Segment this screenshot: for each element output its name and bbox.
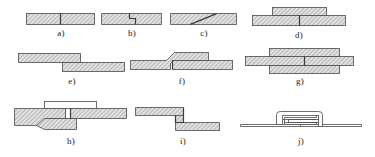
plate-right <box>305 57 354 66</box>
diagram-d-label: d) <box>252 30 346 40</box>
plate-left <box>27 14 61 25</box>
diagram-e <box>18 51 126 75</box>
plate-left <box>246 57 305 66</box>
diagram-e-label: e) <box>18 76 126 86</box>
diagram-i-label: i) <box>135 136 231 146</box>
diagram-h-label: h) <box>14 136 128 146</box>
diagram-f-label: f) <box>130 76 234 86</box>
plate-right <box>300 16 346 26</box>
diagram-h <box>14 99 128 135</box>
plate-right <box>61 14 95 25</box>
fold-inner-hook <box>285 116 319 125</box>
cover-strap-bottom <box>270 66 340 74</box>
plate-straight <box>173 61 233 70</box>
diagram-f <box>130 49 234 75</box>
plate-left <box>253 16 300 26</box>
diagram-a-label: a) <box>26 28 96 38</box>
diagram-i <box>135 102 231 134</box>
diagram-j-label: j) <box>240 136 362 146</box>
diagram-g <box>245 46 355 78</box>
diagram-c-label: c) <box>170 28 238 38</box>
cover-strap-top <box>270 49 340 57</box>
diagram-c <box>170 9 238 29</box>
plate-lower <box>63 63 125 72</box>
gap-block <box>66 109 71 119</box>
cover-strap-top <box>273 8 327 16</box>
diagram-b <box>101 9 163 29</box>
plate-right <box>71 109 127 119</box>
joint-types-figure: a) b) c) d) e) <box>0 0 375 157</box>
diagram-d <box>252 4 346 30</box>
cover-strap-top <box>45 102 97 109</box>
plate-upper <box>19 54 81 63</box>
diagram-a <box>26 9 96 29</box>
diagram-g-label: g) <box>245 76 355 86</box>
diagram-j <box>240 102 362 134</box>
diagram-b-label: b) <box>101 28 163 38</box>
